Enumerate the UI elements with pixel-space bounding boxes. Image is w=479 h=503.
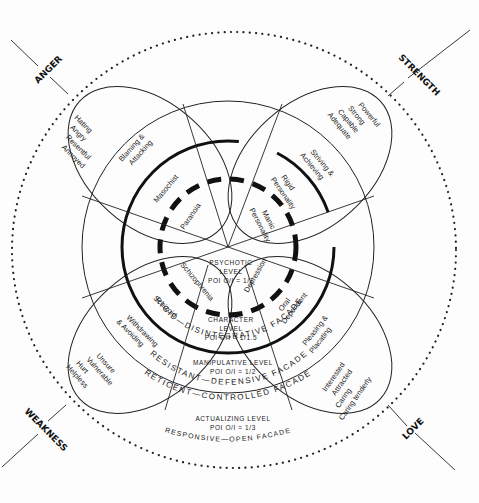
strength-outer-feelings: Powerful Strong Capable Adequate bbox=[326, 91, 383, 148]
corner-label-weakness: WEAKNESS bbox=[23, 406, 70, 453]
svg-text:POI O/I = 1/1: POI O/I = 1/1 bbox=[208, 277, 254, 284]
weakness-manipulative-label: Withdrawing & Avoiding bbox=[115, 310, 160, 355]
strength-character-label: Rigid Personality bbox=[269, 170, 306, 211]
anger-psychotic-label: Paranoia bbox=[178, 201, 203, 231]
svg-text:POI O/I = 1/2: POI O/I = 1/2 bbox=[210, 368, 256, 375]
corner-label-love: LOVE bbox=[400, 416, 425, 441]
love-outer-feelings: Interested Attracted Caring Caring tende… bbox=[312, 358, 373, 422]
svg-text:PSYCHOTIC: PSYCHOTIC bbox=[209, 259, 252, 266]
actualizing-level-label: ACTUALIZING LEVEL POI O/I = 1/3 bbox=[195, 415, 270, 431]
weakness-outer-feelings: Unsure Vulnerable Hurt Helpless bbox=[64, 342, 122, 400]
responsive-open-ring bbox=[12, 32, 456, 468]
strength-psychotic-label: Manic Personality bbox=[247, 202, 281, 244]
personality-facade-diagram: ANGER STRENGTH WEAKNESS LOVE Hating Angr… bbox=[0, 0, 479, 503]
svg-text:LEVEL: LEVEL bbox=[219, 325, 242, 332]
svg-text:POI O/I = 1/3: POI O/I = 1/3 bbox=[210, 424, 256, 431]
strength-manipulative-label: Striving & Achieving bbox=[298, 144, 336, 184]
svg-text:LEVEL: LEVEL bbox=[219, 268, 242, 275]
corner-label-anger: ANGER bbox=[32, 54, 64, 86]
anger-manipulative-label: Blaming & Attacking bbox=[117, 131, 154, 170]
corner-label-strength: STRENGTH bbox=[397, 52, 442, 97]
anger-petal bbox=[38, 55, 262, 274]
svg-text:ACTUALIZING LEVEL: ACTUALIZING LEVEL bbox=[195, 415, 270, 422]
svg-text:CHARACTER: CHARACTER bbox=[208, 316, 254, 323]
anger-outer-feelings: Hating Angry Resentful Annoyed bbox=[51, 113, 108, 170]
svg-text:MANIPULATIVE LEVEL: MANIPULATIVE LEVEL bbox=[193, 359, 273, 366]
